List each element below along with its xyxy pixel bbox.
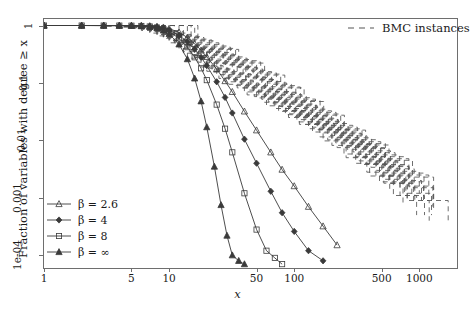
data-marker: [218, 202, 224, 208]
data-marker: [198, 98, 204, 104]
bmc-instance-curve: [44, 26, 404, 196]
data-marker: [320, 258, 326, 264]
data-marker: [204, 124, 210, 130]
bmc-instance-curve: [44, 26, 403, 204]
y-tick-mark: [39, 140, 43, 141]
legend-marker-icon: [46, 214, 72, 226]
legend-entry-label: β = 8: [78, 230, 108, 243]
chart-root: 1510501005001000 10.10.010.0011e-04 x Fr…: [0, 0, 475, 309]
x-tick-label: 10: [162, 272, 175, 284]
legend-entry: β = 2.6: [46, 196, 118, 212]
y-tick-mark: [39, 83, 43, 84]
legend-bmc-instances: BMC instances: [347, 21, 470, 35]
bmc-instance-curve: [44, 26, 429, 198]
bmc-instance-curve: [44, 26, 404, 185]
bmc-instance-curve: [44, 26, 415, 204]
data-marker: [192, 75, 198, 81]
y-tick-mark: [39, 255, 43, 256]
legend-entry: β = ∞: [46, 244, 118, 260]
x-tick-label: 500: [372, 272, 392, 284]
bmc-instance-curve: [44, 26, 424, 196]
x-tick-label: 5: [128, 272, 135, 284]
bmc-instance-curve: [44, 26, 419, 194]
dashed-line-icon: [347, 24, 375, 32]
data-marker: [279, 210, 285, 216]
bmc-instance-curve: [44, 26, 412, 196]
data-marker: [211, 163, 217, 169]
x-axis-title: x: [0, 287, 475, 301]
x-tick-label: 1: [41, 272, 48, 284]
x-tick-label: 1000: [406, 272, 433, 284]
data-marker: [214, 79, 220, 85]
legend-entry-label: β = 2.6: [78, 198, 118, 211]
data-marker: [229, 252, 235, 258]
data-marker: [224, 232, 230, 238]
bmc-instance-curve: [44, 26, 407, 201]
bmc-instance-curve: [44, 26, 448, 225]
y-axis-title: Fraction of variables with degree ≥ x: [16, 40, 30, 258]
legend-marker-icon: [46, 230, 72, 242]
data-marker: [56, 217, 62, 223]
bmc-instance-curve: [44, 26, 434, 211]
legend-entry: β = 4: [46, 212, 118, 228]
y-tick-mark: [39, 26, 43, 27]
legend-entry-label: β = 4: [78, 214, 108, 227]
x-tick-label: 100: [284, 272, 304, 284]
y-tick-mark: [39, 198, 43, 199]
legend-marker-icon: [46, 198, 72, 210]
y-tick-label: 1: [23, 22, 35, 29]
data-marker: [254, 160, 260, 166]
legend-marker-icon: [46, 246, 72, 258]
bmc-instance-curve: [44, 26, 432, 216]
bmc-instance-curve: [44, 26, 433, 207]
data-marker: [222, 94, 228, 100]
legend-entry: β = 8: [46, 228, 118, 244]
bmc-instance-curve: [44, 26, 400, 190]
bmc-instance-curve: [44, 26, 414, 190]
legend-bmc-label: BMC instances: [382, 21, 470, 35]
legend-entry-label: β = ∞: [78, 246, 110, 259]
data-marker: [242, 136, 248, 142]
data-marker: [184, 56, 190, 62]
data-marker: [268, 188, 274, 194]
bmc-instance-curve: [44, 26, 417, 216]
data-marker: [229, 110, 235, 116]
x-tick-label: 50: [250, 272, 263, 284]
bmc-instance-curve: [44, 26, 390, 192]
legend-series: β = 2.6β = 4β = 8β = ∞: [46, 196, 118, 260]
